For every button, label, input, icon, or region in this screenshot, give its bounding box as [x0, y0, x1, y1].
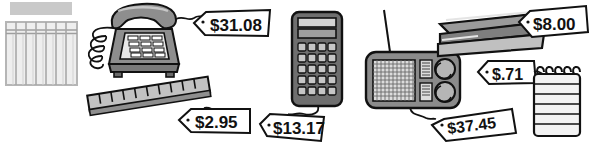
telephone-base — [109, 64, 179, 72]
price-tag-stapler-label: $8.00 — [533, 15, 576, 34]
price-tag-notepad-label: $.71 — [492, 66, 523, 83]
calculator-art — [288, 10, 350, 115]
notepad-art — [528, 62, 594, 150]
price-tag-stapler-art: $8.00 — [516, 4, 592, 44]
price-tag-radio-art: $37.45 — [428, 107, 520, 147]
price-tag-telephone-art: $31.08 — [190, 6, 276, 42]
telephone-handset — [112, 4, 176, 28]
calculator-display-bottom — [298, 29, 336, 38]
ledger-pad-art — [0, 0, 90, 100]
desk-telephone — [84, 2, 202, 80]
radio-antenna — [384, 10, 390, 52]
telephone-keypad-buttons — [128, 36, 165, 57]
spiral-notepad — [528, 62, 594, 150]
telephone-body — [109, 29, 179, 77]
price-tag-ruler-label: $2.95 — [195, 113, 238, 132]
price-tag-calculator-label: $13.17 — [273, 119, 325, 138]
telephone-art — [84, 2, 202, 80]
illustration-scene: $31.08 — [0, 0, 595, 154]
price-tag-stapler: $8.00 — [516, 4, 592, 44]
price-tag-calculator-art: $13.17 — [258, 108, 338, 146]
price-tag-ruler-art: $2.95 — [176, 104, 256, 138]
calculator-display-top — [298, 18, 336, 27]
price-tag-telephone: $31.08 — [190, 6, 276, 42]
calculator — [288, 10, 350, 115]
price-tag-telephone-label: $31.08 — [210, 16, 262, 35]
ledger-grid-pad — [0, 0, 90, 100]
ledger-gray-bar — [10, 2, 72, 15]
price-tag-radio: $37.45 — [428, 107, 520, 147]
price-tag-ruler: $2.95 — [176, 104, 256, 138]
price-tag-calculator: $13.17 — [258, 108, 338, 146]
